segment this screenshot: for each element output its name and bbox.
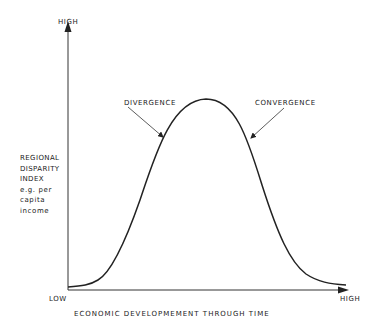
y-axis-title-line: e.g. per (20, 185, 60, 196)
y-axis-title-line: DISPARITY (20, 164, 60, 175)
y-axis-title-line: income (20, 206, 60, 217)
x-axis-title: ECONOMIC DEVELOPMEMENT THROUGH TIME (74, 310, 270, 318)
x-axis-arrowhead-icon (338, 287, 349, 294)
divergence-arrow (128, 107, 163, 137)
convergence-label: CONVERGENCE (255, 99, 316, 107)
disparity-curve (68, 99, 346, 287)
divergence-label: DIVERGENCE (124, 99, 176, 107)
x-axis-low-label: LOW (49, 295, 67, 303)
x-axis-high-label: HIGH (340, 295, 360, 303)
convergence-arrow (251, 108, 284, 138)
y-axis-title-line: INDEX (20, 174, 60, 185)
y-axis-title-line: REGIONAL (20, 153, 60, 164)
y-axis-title-line: capita (20, 195, 60, 206)
y-axis-title: REGIONAL DISPARITY INDEX e.g. per capita… (20, 153, 60, 216)
y-axis-high-label: HIGH (58, 18, 78, 26)
